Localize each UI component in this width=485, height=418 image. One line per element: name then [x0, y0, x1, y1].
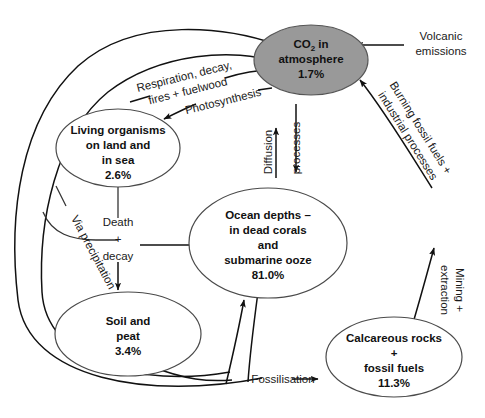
living-line2: on land and	[86, 139, 151, 151]
label-volcanic: Volcanic emissions	[415, 30, 466, 57]
death-line1: Death	[103, 216, 134, 228]
living-percent: 2.6%	[105, 169, 131, 181]
ocean-line2: in dead corals	[229, 224, 306, 236]
rocks-line2: +	[391, 347, 398, 359]
processes-text: processes	[290, 122, 302, 175]
co2-line1-tail: in	[315, 38, 328, 50]
ocean-percent: 81.0%	[252, 269, 285, 281]
volcanic-line2: emissions	[415, 45, 466, 57]
label-death-decay: Death + decay	[103, 216, 134, 262]
rocks-line3: fossil fuels	[364, 362, 424, 374]
label-fossilisation: Fossilisation	[251, 373, 314, 385]
diffusion-text: Diffusion	[262, 130, 274, 175]
co2-percent: 1.7%	[298, 68, 324, 80]
living-line1: Living organisms	[70, 124, 165, 136]
soil-line1: Soil and	[106, 315, 151, 327]
ocean-line1: Ocean depths –	[225, 209, 311, 221]
soil-line2: peat	[116, 330, 140, 342]
edge-rocks-to-ocean	[226, 292, 258, 384]
diagram-canvas: CO2 in atmosphere 1.7% Living organisms …	[0, 0, 485, 418]
mining-line2: extraction	[439, 265, 451, 315]
label-processes: processes	[290, 122, 302, 175]
co2-line1-main: CO	[293, 38, 310, 50]
mining-line1: Mining +	[454, 268, 466, 312]
soil-percent: 3.4%	[115, 345, 141, 357]
death-line2: +	[115, 233, 122, 245]
ocean-line3: and	[258, 239, 278, 251]
living-line3: in sea	[102, 154, 135, 166]
rocks-line1: Calcareous rocks	[346, 332, 442, 344]
ocean-line4: submarine ooze	[224, 254, 312, 266]
label-mining-extraction: Mining + extraction	[439, 265, 466, 315]
death-line3: decay	[103, 250, 134, 262]
co2-line2: atmosphere	[278, 53, 343, 65]
volcanic-line1: Volcanic	[420, 30, 463, 42]
carbon-cycle-diagram: CO2 in atmosphere 1.7% Living organisms …	[0, 0, 485, 418]
fossilisation-text: Fossilisation	[251, 373, 314, 385]
label-burning-fossil-fuels: Burning fossil fuels + industrial proces…	[375, 79, 454, 184]
label-diffusion: Diffusion	[262, 130, 274, 175]
rocks-percent: 11.3%	[378, 377, 410, 389]
